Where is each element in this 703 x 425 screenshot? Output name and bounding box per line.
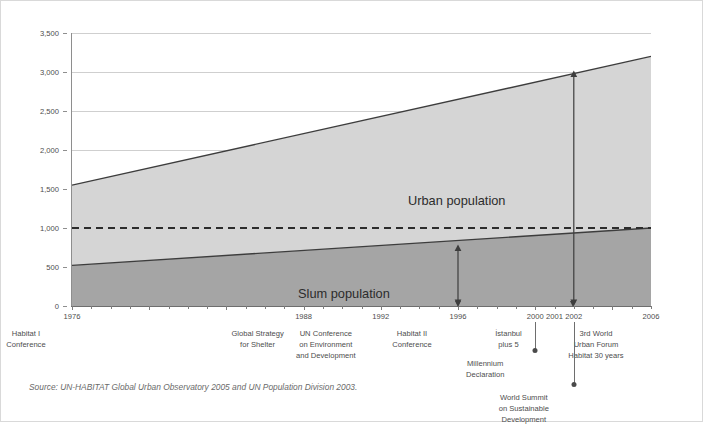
x-tick-mark <box>284 306 285 309</box>
x-tick-mark <box>323 306 324 309</box>
x-tick-mark <box>593 306 594 309</box>
timeline-caption-line: Conference <box>0 339 72 350</box>
area-series-svg <box>72 33 651 306</box>
y-tick-mark <box>63 150 67 151</box>
urban-population-label: Urban population <box>408 193 505 208</box>
timeline-pin-label-line: on Sustainable <box>474 403 574 414</box>
timeline-pin-label-line: Declaration <box>435 369 535 380</box>
y-tick-label: 3,500 <box>40 29 59 38</box>
timeline-pin-label-2000: MillenniumDeclaration <box>435 358 535 380</box>
timeline-pin-label-2002: World Summiton SustainableDevelopment <box>474 392 574 425</box>
x-tick-year-2000: 2000 <box>527 312 544 321</box>
x-tick-year-2002: 2002 <box>565 312 582 321</box>
x-tick-mark <box>149 306 150 310</box>
y-tick-mark <box>63 267 67 268</box>
x-tick-year-1992: 1992 <box>372 312 389 321</box>
timeline-caption-line: Habitat II <box>366 328 458 339</box>
x-tick-year-2001: 2001 <box>546 312 563 321</box>
timeline-caption-line: UN Conference <box>271 328 381 339</box>
x-tick-mark <box>207 306 208 309</box>
y-tick-mark <box>63 111 67 112</box>
x-tick-year-1976: 1976 <box>64 312 81 321</box>
timeline-caption-line: Urban Forum <box>541 339 651 350</box>
x-tick-mark <box>555 306 556 309</box>
timeline-pin-label-line: Millennium <box>435 358 535 369</box>
axis-marker-1996 <box>455 301 461 307</box>
timeline-pin-line-2000 <box>535 322 536 350</box>
timeline-caption-line: and Development <box>271 350 381 361</box>
x-tick-mark <box>246 306 247 309</box>
timeline-event-1976: Habitat IConference <box>0 328 72 350</box>
timeline-event-1992: UN Conferenceon Environmentand Developme… <box>271 328 381 361</box>
x-tick-mark <box>72 306 73 310</box>
timeline-event-1996: Habitat IIConference <box>366 328 458 350</box>
x-tick-mark <box>497 306 498 309</box>
timeline-caption-line: Habitat I <box>0 328 72 339</box>
y-tick-label: 1,500 <box>40 185 59 194</box>
plot-area: Urban population Slum population <box>72 33 651 306</box>
x-tick-mark <box>91 306 92 309</box>
timeline-pin-dot-2000 <box>533 348 538 353</box>
x-tick-mark <box>169 306 170 309</box>
y-tick-mark <box>63 189 67 190</box>
x-tick-mark <box>130 306 131 309</box>
x-tick-mark <box>535 306 536 310</box>
timeline-caption-line: Habitat 30 years <box>541 350 651 361</box>
y-tick-mark <box>63 228 67 229</box>
x-tick-mark <box>419 306 420 309</box>
timeline-caption-line: Conference <box>366 339 458 350</box>
y-tick-label: 2,500 <box>40 107 59 116</box>
x-tick-mark <box>632 306 633 309</box>
y-tick-mark <box>63 33 67 34</box>
x-tick-mark <box>651 306 652 309</box>
x-tick-mark <box>111 306 112 309</box>
timeline-pin-line-2002 <box>574 322 575 384</box>
x-tick-mark <box>265 306 266 309</box>
x-tick-mark <box>226 306 227 310</box>
x-tick-mark <box>304 306 305 310</box>
y-tick-label: 3,000 <box>40 68 59 77</box>
y-tick-label: 500 <box>46 263 59 272</box>
axis-marker-2002 <box>570 301 576 307</box>
source-note: Source: UN-HABITAT Global Urban Observat… <box>29 382 357 392</box>
x-tick-mark <box>188 306 189 309</box>
x-tick-mark <box>477 306 478 309</box>
timeline-caption-line: on Environment <box>271 339 381 350</box>
x-tick-year-1996: 1996 <box>450 312 467 321</box>
x-axis-timeline: 1976Habitat IConference1988Global Strate… <box>1 306 703 416</box>
timeline-event-2006: 3rd WorldUrban ForumHabitat 30 years <box>541 328 651 361</box>
y-axis-ticks: 05001,0001,5002,0002,5003,0003,500 <box>1 33 67 306</box>
slum-population-label: Slum population <box>298 286 390 301</box>
timeline-pin-label-line: Development <box>474 414 574 425</box>
x-tick-mark <box>516 306 517 309</box>
x-tick-mark <box>439 306 440 309</box>
x-tick-mark <box>342 306 343 309</box>
x-tick-mark <box>362 306 363 309</box>
y-tick-mark <box>63 72 67 73</box>
x-tick-mark <box>612 306 613 310</box>
timeline-pin-dot-2002 <box>571 382 576 387</box>
timeline-pin-label-line: World Summit <box>474 392 574 403</box>
y-tick-label: 2,000 <box>40 146 59 155</box>
x-tick-year-2006: 2006 <box>643 312 660 321</box>
y-tick-label: 1,000 <box>40 224 59 233</box>
x-tick-year-1988: 1988 <box>295 312 312 321</box>
x-tick-mark <box>400 306 401 309</box>
timeline-caption-line: 3rd World <box>541 328 651 339</box>
x-tick-mark <box>381 306 382 310</box>
